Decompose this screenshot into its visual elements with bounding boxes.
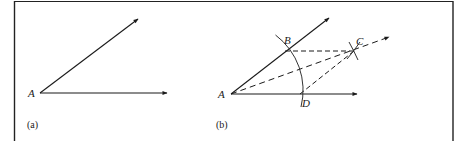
panel-a: A (a) — [27, 19, 167, 131]
segment-dc — [300, 51, 354, 94]
angle-bisector-figure: A (a) A B C D (b) — [0, 0, 456, 141]
point-label-a: A — [27, 87, 35, 99]
point-label-b: B — [284, 34, 291, 46]
figure-frame — [14, 1, 453, 141]
point-label-c: C — [356, 35, 364, 47]
panel-label-b: (b) — [216, 119, 228, 131]
point-label-a: A — [217, 88, 225, 100]
bisector-ray — [231, 37, 389, 94]
panel-b: A B C D (b) — [216, 18, 389, 131]
ray-upper — [40, 19, 138, 93]
point-label-d: D — [301, 97, 310, 109]
panel-label-a: (a) — [27, 119, 38, 131]
